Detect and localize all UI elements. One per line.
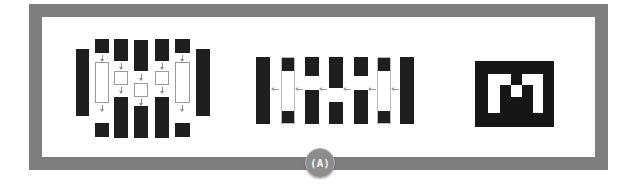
col3-bottom-block	[134, 106, 148, 138]
left-arrow-icon	[274, 89, 279, 90]
down-arrow-icon	[102, 105, 103, 110]
col5-bottom-block	[175, 123, 190, 137]
col4-white-block	[155, 71, 169, 85]
left-arrow-icon	[394, 89, 399, 90]
m-left-stroke	[488, 74, 500, 113]
col1-bottom-block	[95, 123, 109, 137]
col2-bottom-block	[114, 97, 128, 138]
figure-label-badge: (A)	[305, 148, 335, 178]
col4-top-block	[155, 39, 169, 61]
left-arrow-icon	[322, 89, 327, 90]
left-arrow-icon	[298, 89, 303, 90]
bar-4	[354, 57, 368, 124]
m-right-stroke	[533, 74, 543, 113]
down-arrow-icon	[162, 63, 163, 68]
col1-top-block	[95, 39, 109, 53]
col1-white-block	[95, 62, 109, 103]
col5-white-block	[175, 62, 190, 103]
bar-1	[281, 57, 295, 124]
down-arrow-icon	[121, 63, 122, 68]
pixel-m-logo-icon	[475, 61, 554, 127]
col3-top-block	[134, 40, 148, 71]
bar-6	[400, 57, 414, 124]
col5-top-block	[175, 39, 190, 53]
right-side-bar	[196, 49, 210, 116]
col2-top-block	[114, 39, 128, 61]
down-arrow-icon	[141, 99, 142, 104]
col3-white-block	[134, 83, 148, 97]
m-left-diagonal	[500, 74, 511, 85]
m-center-vertex	[511, 85, 522, 97]
down-arrow-icon	[182, 55, 183, 60]
down-arrow-icon	[121, 87, 122, 92]
m-right-diagonal	[522, 74, 533, 85]
down-arrow-icon	[182, 105, 183, 110]
bar-5	[377, 57, 391, 124]
col2-white-block	[114, 71, 128, 85]
col4-bottom-block	[155, 97, 169, 138]
down-arrow-icon	[102, 55, 103, 60]
bar-2	[305, 57, 319, 124]
bar-0	[256, 57, 270, 124]
left-arrow-icon	[346, 89, 351, 90]
left-arrow-icon	[371, 89, 376, 90]
bar-3	[329, 57, 343, 124]
down-arrow-icon	[162, 87, 163, 92]
down-arrow-icon	[141, 74, 142, 79]
left-side-bar	[76, 49, 89, 116]
figure-label: (A)	[310, 157, 330, 170]
